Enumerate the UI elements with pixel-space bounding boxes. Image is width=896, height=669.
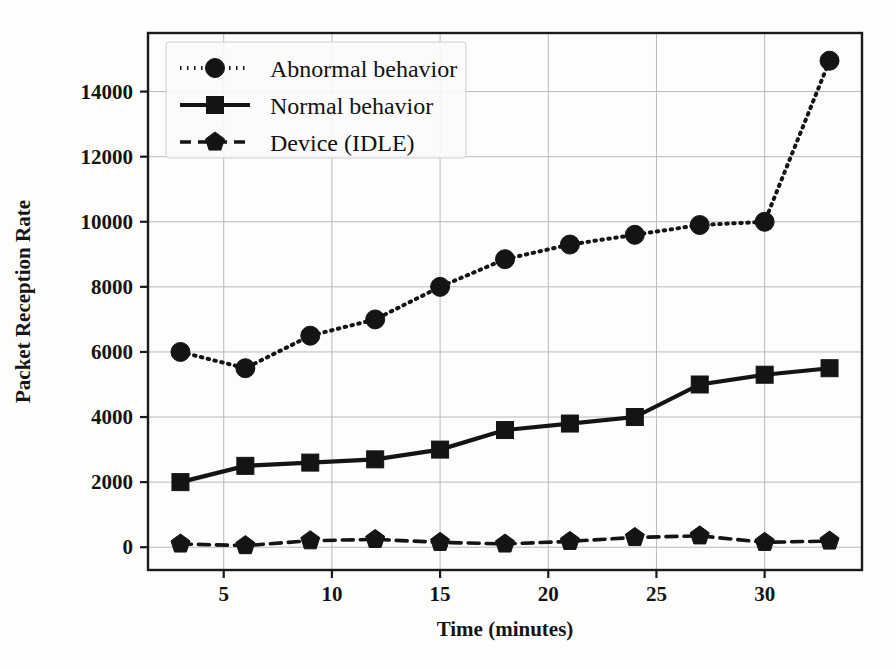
y-axis-title: Packet Reception Rate — [11, 200, 35, 403]
data-point-marker — [560, 531, 579, 549]
data-point-marker — [236, 359, 255, 378]
axis-ticks — [140, 92, 765, 578]
data-point-marker — [206, 59, 225, 78]
data-point-marker — [497, 422, 514, 439]
x-tick-label: 20 — [538, 582, 559, 606]
series-normal-behavior — [172, 360, 838, 491]
data-point-marker — [625, 225, 644, 244]
x-tick-label: 15 — [430, 582, 451, 606]
data-point-marker — [302, 454, 319, 471]
data-point-marker — [171, 534, 190, 552]
data-point-marker — [756, 366, 773, 383]
x-tick-label: 30 — [754, 582, 775, 606]
x-axis-tick-labels: 51015202530 — [218, 582, 775, 606]
x-tick-label: 10 — [321, 582, 342, 606]
data-point-marker — [625, 527, 644, 545]
y-axis-tick-labels: 02000400060008000100001200014000 — [81, 80, 134, 560]
y-tick-label: 2000 — [91, 470, 133, 494]
chart-page: 02000400060008000100001200014000 5101520… — [0, 0, 896, 669]
x-tick-label: 25 — [646, 582, 667, 606]
y-tick-label: 10000 — [81, 210, 134, 234]
data-point-marker — [431, 277, 450, 296]
data-point-marker — [237, 457, 254, 474]
y-tick-label: 4000 — [91, 405, 133, 429]
data-point-marker — [495, 534, 514, 552]
data-point-marker — [431, 532, 450, 550]
data-point-marker — [691, 376, 708, 393]
legend-label: Device (IDLE) — [270, 130, 415, 156]
data-point-marker — [301, 326, 320, 345]
series-device-idle — [171, 526, 839, 554]
data-point-marker — [561, 415, 578, 432]
data-point-marker — [755, 212, 774, 231]
y-tick-label: 14000 — [81, 80, 134, 104]
data-point-marker — [367, 451, 384, 468]
data-point-marker — [821, 360, 838, 377]
data-point-marker — [626, 409, 643, 426]
data-point-marker — [690, 216, 709, 235]
line-chart: 02000400060008000100001200014000 5101520… — [0, 0, 896, 669]
x-axis-title: Time (minutes) — [437, 617, 574, 641]
data-point-marker — [236, 536, 255, 554]
data-point-marker — [432, 441, 449, 458]
data-point-marker — [820, 531, 839, 549]
y-tick-label: 6000 — [91, 340, 133, 364]
data-point-marker — [366, 310, 385, 329]
y-tick-label: 8000 — [91, 275, 133, 299]
data-point-marker — [172, 474, 189, 491]
legend-label: Abnormal behavior — [270, 56, 457, 82]
y-tick-label: 0 — [123, 535, 134, 559]
data-point-marker — [496, 250, 515, 269]
data-point-marker — [366, 529, 385, 547]
data-point-marker — [171, 342, 190, 361]
data-point-marker — [301, 531, 320, 549]
y-tick-label: 12000 — [81, 145, 134, 169]
data-point-marker — [755, 532, 774, 550]
data-point-marker — [560, 235, 579, 254]
data-point-marker — [820, 51, 839, 70]
x-tick-label: 5 — [218, 582, 229, 606]
chart-legend: Abnormal behaviorNormal behaviorDevice (… — [166, 42, 466, 158]
legend-label: Normal behavior — [270, 93, 433, 119]
data-point-marker — [690, 526, 709, 544]
data-point-marker — [207, 97, 224, 114]
